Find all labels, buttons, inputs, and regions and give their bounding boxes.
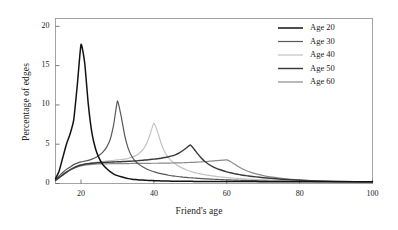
y-tick-label: 0 [28, 178, 50, 187]
x-tick-label: 80 [285, 189, 315, 198]
y-tick-label: 15 [28, 60, 50, 69]
x-tick-label: 20 [66, 189, 96, 198]
x-tick-label: 60 [212, 189, 242, 198]
legend-label-age-60: Age 60 [310, 76, 335, 86]
x-tick-label: 100 [358, 189, 388, 198]
y-tick-label: 10 [28, 99, 50, 108]
plot-area [0, 0, 398, 230]
legend-label-age-30: Age 30 [310, 36, 335, 46]
legend-swatches [278, 28, 303, 82]
legend-label-age-20: Age 20 [310, 22, 335, 32]
x-tick-label: 40 [139, 189, 169, 198]
curve-age-30 [56, 101, 373, 182]
curve-age-60 [56, 160, 373, 182]
chart-figure: Percentage of edges Friend's age 0510152… [0, 0, 398, 230]
legend-label-age-50: Age 50 [310, 63, 335, 73]
y-tick-label: 5 [28, 139, 50, 148]
legend-label-age-40: Age 40 [310, 49, 335, 59]
y-tick-label: 20 [28, 21, 50, 30]
